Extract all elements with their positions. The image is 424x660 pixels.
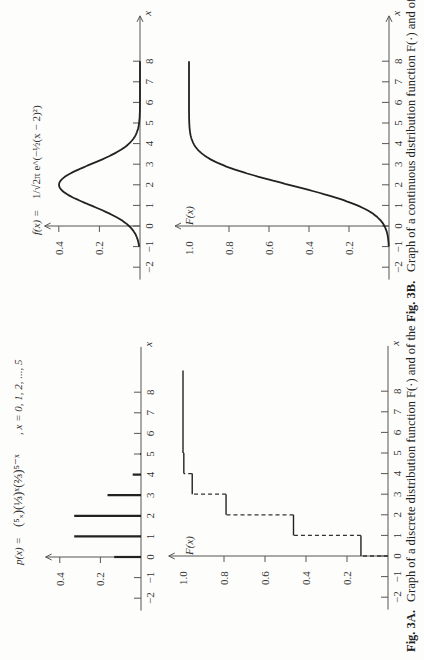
pmf-formula-rhs: (⁵ₓ)(⅓)ˣ(⅔)⁵⁻ˣ: [10, 454, 25, 527]
density-curve: [59, 61, 140, 246]
x-tick-label: 1: [143, 203, 155, 209]
x-tick-label: 0: [392, 223, 404, 229]
x-tick-label: −2: [392, 261, 404, 273]
fig3a-caption: Fig. 3A. Graph of a discrete distributio…: [404, 325, 418, 652]
x-axis-label: x: [390, 11, 402, 17]
x-tick-label: 2: [392, 182, 404, 188]
pdf-formula-lhs: f(x) =: [30, 210, 43, 235]
x-tick-label: 3: [391, 491, 403, 497]
fig3a-pmf-plot: x−2−10123456780.20.4: [46, 342, 156, 611]
x-tick-label: 7: [144, 410, 156, 416]
x-tick-label: −1: [392, 241, 404, 253]
x-tick-label: 6: [143, 99, 155, 105]
x-tick-label: 6: [391, 429, 403, 435]
fig3b-caption: Fig. 3B. Graph of a continuous distribut…: [404, 0, 418, 322]
fig3a-pmf-formula: p(x) = (⁵ₓ)(⅓)ˣ(⅔)⁵⁻ˣ , x = 0, 1, 2, ...…: [10, 359, 25, 566]
x-tick-label: 1: [392, 203, 404, 209]
x-tick-label: 7: [391, 409, 403, 415]
pdf-formula-rhs: 1/√2π e^(−½(x − 2)²): [30, 105, 43, 199]
x-tick-label: 0: [391, 553, 403, 559]
y-tick-label: 0.4: [53, 241, 65, 255]
y-tick-label: 0.4: [303, 241, 315, 255]
x-tick-label: 7: [143, 79, 155, 85]
x-tick-label: 5: [144, 451, 156, 457]
x-tick-label: 2: [144, 513, 156, 519]
x-tick-label: 2: [391, 512, 403, 518]
y-tick-label: 0.2: [343, 241, 355, 255]
x-tick-label: 8: [144, 389, 156, 395]
fig3a-cdf-plot: x−2−10123456780.20.40.60.81.0: [169, 341, 403, 610]
x-tick-label: −2: [391, 591, 403, 603]
x-tick-label: −1: [391, 571, 403, 583]
x-tick-label: 4: [144, 471, 156, 477]
y-tick-label: 0.8: [218, 571, 230, 585]
y-tick-label: 0.2: [93, 241, 105, 255]
x-tick-label: 2: [143, 182, 155, 188]
fig3a-caption-label: Fig. 3A.: [404, 610, 418, 652]
x-tick-label: 8: [391, 388, 403, 394]
x-tick-label: 3: [144, 492, 156, 498]
y-tick-label: 1.0: [177, 571, 189, 585]
x-tick-label: 4: [391, 470, 403, 476]
x-tick-label: 0: [143, 223, 155, 229]
pmf-domain: , x = 0, 1, 2, ..., 5: [12, 359, 24, 435]
y-tick-label: 0.4: [54, 572, 66, 586]
x-tick-label: 6: [144, 430, 156, 436]
x-axis-label: x: [142, 342, 154, 348]
fig3a-cdf-axis-label: F(x): [183, 536, 196, 556]
x-tick-label: −2: [143, 261, 155, 273]
y-tick-label: 1.0: [183, 241, 195, 255]
x-tick-label: 1: [144, 534, 156, 540]
pmf-formula-lhs: p(x) =: [12, 537, 25, 566]
fig3a-caption-text: Graph of a discrete distribution functio…: [404, 325, 418, 602]
x-tick-label: −2: [144, 592, 156, 604]
y-tick-label: 0.4: [300, 571, 312, 585]
x-tick-label: −1: [144, 572, 156, 584]
fig3b-caption-text: Graph of a continuous distribution funct…: [404, 0, 418, 272]
x-tick-label: 3: [143, 161, 155, 167]
x-tick-label: 6: [392, 99, 404, 105]
rotated-textbook-page: x−2−10123456780.20.4 x−2−10123456780.20.…: [0, 0, 424, 660]
x-tick-label: 5: [143, 120, 155, 126]
fig3b-cdf-axis-label: F(x): [183, 206, 196, 226]
x-tick-label: 4: [392, 140, 404, 146]
y-tick-label: 0.6: [263, 241, 275, 255]
x-tick-label: 5: [392, 120, 404, 126]
x-tick-label: 4: [143, 140, 155, 146]
fig3b-pdf-formula: f(x) = 1/√2π e^(−½(x − 2)²): [30, 105, 43, 235]
x-axis-label: x: [389, 341, 401, 347]
x-tick-label: 1: [391, 533, 403, 539]
x-tick-label: 0: [144, 554, 156, 560]
x-tick-label: 3: [392, 161, 404, 167]
y-tick-label: 0.2: [341, 571, 353, 585]
fig3b-caption-label: Fig. 3B.: [404, 281, 418, 322]
x-tick-label: 5: [391, 450, 403, 456]
y-tick-label: 0.2: [94, 572, 106, 586]
x-tick-label: 7: [392, 79, 404, 85]
y-tick-label: 0.8: [223, 241, 235, 255]
y-tick-label: 0.6: [259, 571, 271, 585]
fig3b-density-plot: x−2−10123456780.20.4: [45, 11, 155, 280]
x-axis-label: x: [141, 11, 153, 17]
cdf-curve: [189, 61, 389, 246]
x-tick-label: 8: [392, 58, 404, 64]
fig3b-cdf-plot: x−2−10123456780.20.40.60.81.0: [175, 11, 404, 280]
x-tick-label: 8: [143, 58, 155, 64]
x-tick-label: −1: [143, 241, 155, 253]
figure-canvas: x−2−10123456780.20.4 x−2−10123456780.20.…: [0, 0, 424, 660]
